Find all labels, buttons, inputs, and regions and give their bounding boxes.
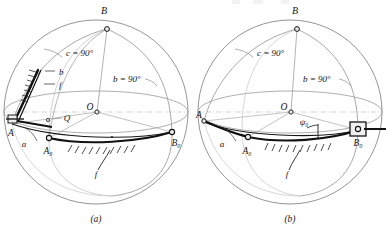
label-c-angle-b: c = 90°: [257, 48, 285, 58]
ground-hatching-b: [265, 143, 331, 152]
label-psi-b: ψ₀: [300, 117, 309, 127]
top-edge-text-fragment: [232, 0, 302, 4]
midpoint-marker-a: [111, 136, 113, 138]
node-B-a: [105, 27, 110, 32]
label-b-a: b: [59, 67, 64, 77]
label-a-b: a: [220, 139, 225, 149]
label-O-b: O: [281, 102, 288, 112]
label-A0-a: A₀: [42, 146, 52, 156]
label-B0-b: B₀: [353, 138, 362, 148]
label-f-lower-a: f: [95, 169, 99, 179]
arc-A-B0-a: [12, 124, 172, 137]
psi-angle-arc-b: [307, 125, 318, 128]
label-O-a: O: [87, 102, 94, 112]
caption-panel-a: (a): [90, 214, 101, 225]
panel-a: B O A A₀ B₀ Q a b f f c = 90° b = 90° (a…: [4, 5, 188, 225]
radius-O-B-a: [97, 29, 107, 112]
label-A-a: A: [7, 128, 14, 138]
node-B0-a: [169, 129, 174, 134]
label-B-b: B: [292, 5, 298, 16]
label-Q-a: Q: [64, 113, 71, 123]
node-Q-a: [46, 118, 49, 121]
node-O-a: [95, 110, 99, 114]
label-B-a: B: [101, 5, 107, 16]
meridian-b-a: [107, 29, 172, 196]
leader-bdeg-b: [339, 79, 351, 86]
label-a-a: a: [22, 139, 27, 149]
label-b-angle-a: b = 90°: [113, 74, 141, 84]
caption-panel-b: (b): [284, 214, 295, 225]
label-b-angle-b: b = 90°: [303, 74, 331, 84]
node-B0-b: [355, 126, 360, 131]
node-A0-a: [46, 135, 51, 140]
spherical-mechanism-figure: B O A A₀ B₀ Q a b f f c = 90° b = 90° (a…: [0, 0, 386, 234]
radius-O-B-b: [291, 29, 297, 112]
label-A-b: A: [195, 110, 202, 120]
node-A-b: [202, 119, 206, 123]
node-A0-b: [245, 134, 250, 139]
link-A-Q-a: [17, 121, 52, 127]
label-A0-b: A₀: [241, 146, 251, 156]
node-O-b: [289, 110, 293, 114]
meridian-b-b: [297, 29, 358, 196]
radius-O-B0-a: [97, 112, 172, 132]
leader-bdeg-a: [145, 79, 157, 86]
leader-c-a: [44, 49, 62, 57]
leader-c-b: [235, 49, 253, 57]
label-c-angle-a: c = 90°: [66, 48, 94, 58]
label-B0-a: B₀: [171, 138, 180, 148]
label-f-b: f: [286, 169, 290, 179]
ground-hatching-a: [68, 145, 135, 154]
figure-root: B O A A₀ B₀ Q a b f f c = 90° b = 90° (a…: [0, 0, 386, 234]
leader-f-b: [289, 150, 300, 170]
node-B-b: [295, 27, 300, 32]
panel-b: B O A A₀ B₀ a f ψ₀ c = 90° b = 90° (b): [195, 5, 386, 225]
